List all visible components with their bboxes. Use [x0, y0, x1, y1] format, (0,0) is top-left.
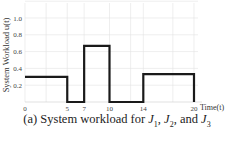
x-axis-label: Time(t)	[200, 103, 224, 112]
caption-j3-sub: 3	[207, 120, 211, 129]
workload-step-line	[25, 46, 194, 102]
figure-caption: (a) System workload for J1, J2, and J3	[0, 112, 234, 129]
y-tick-label: 1.0	[13, 15, 22, 23]
y-axis-label: System Workload u(t)	[1, 17, 11, 92]
workload-step-chart: 0571014200.20.40.60.81.0 System Workload…	[0, 0, 234, 115]
caption-sep2: , and	[174, 112, 201, 126]
caption-prefix: (a) System workload for	[23, 112, 148, 126]
step-series	[25, 46, 194, 102]
y-tick-label: 0.6	[13, 48, 22, 56]
y-tick-label: 0.4	[13, 65, 22, 73]
grid-lines	[25, 1, 198, 102]
y-tick-label: 0.2	[13, 82, 22, 90]
y-tick-label: 0.8	[13, 31, 22, 39]
tick-labels: 0571014200.20.40.60.81.0	[13, 15, 198, 114]
